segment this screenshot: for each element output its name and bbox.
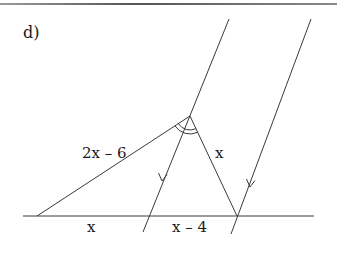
part-label: d) [23,25,39,41]
triangle-side-right [190,116,237,216]
side-label-left: 2x – 6 [82,146,127,161]
diagram-canvas [0,0,341,256]
base-label-right: x – 4 [172,220,207,235]
parallel-line-middle [143,19,229,232]
parallel-line-right [231,19,311,234]
triangle-side-left [37,116,190,216]
side-label-right: x [215,146,223,161]
base-label-left: x [87,220,95,235]
top-rule [0,3,337,5]
